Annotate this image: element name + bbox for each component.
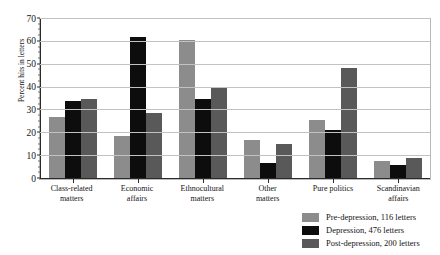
y-tick-label-40: 40 <box>27 83 37 93</box>
x-axis-line <box>40 178 430 179</box>
y-tick-minor <box>38 143 40 144</box>
legend-label-post: Post-depression, 200 letters <box>326 238 420 248</box>
gridline-20 <box>40 132 430 133</box>
bar-post-5[interactable] <box>406 158 422 179</box>
y-tick-minor <box>38 58 40 59</box>
legend-item-dep[interactable]: Depression, 476 letters <box>302 224 420 236</box>
x-tick-mark-1 <box>138 179 139 183</box>
y-tick-label-10: 10 <box>27 151 37 161</box>
gridline-30 <box>40 109 430 110</box>
bar-dep-3[interactable] <box>260 163 276 179</box>
legend-label-dep: Depression, 476 letters <box>326 225 404 235</box>
chart-legend: Pre-depression, 116 lettersDepression, 4… <box>302 211 420 250</box>
bar-pre-4[interactable] <box>309 120 325 179</box>
gridline-10 <box>40 155 430 156</box>
legend-item-post[interactable]: Post-depression, 200 letters <box>302 237 420 249</box>
gridline-40 <box>40 87 430 88</box>
y-tick-minor <box>38 98 40 99</box>
x-tick-mark-2 <box>203 179 204 183</box>
category-label-line: matters <box>235 194 300 204</box>
bar-pre-5[interactable] <box>374 161 390 179</box>
y-tick-minor <box>38 103 40 104</box>
y-tick-minor <box>38 52 40 53</box>
y-tick-minor <box>38 166 40 167</box>
bar-pre-0[interactable] <box>49 117 65 179</box>
y-tick-minor <box>38 29 40 30</box>
y-tick-mark-40 <box>37 86 40 87</box>
y-tick-minor <box>38 149 40 150</box>
bar-dep-1[interactable] <box>130 37 146 179</box>
y-tick-label-0: 0 <box>31 174 36 184</box>
bar-post-0[interactable] <box>81 99 97 179</box>
y-tick-mark-10 <box>37 155 40 156</box>
bar-post-3[interactable] <box>276 144 292 179</box>
category-label-line: matters <box>170 194 235 204</box>
y-tick-minor <box>38 126 40 127</box>
y-tick-label-30: 30 <box>27 106 37 116</box>
y-tick-label-60: 60 <box>27 37 37 47</box>
bar-pre-3[interactable] <box>244 140 260 179</box>
bar-post-1[interactable] <box>146 113 162 179</box>
category-label-line: Pure politics <box>300 184 365 194</box>
y-tick-mark-0 <box>37 178 40 179</box>
y-tick-minor <box>38 35 40 36</box>
category-label-5: Scandinavianaffairs <box>366 184 431 204</box>
plot-inner: 010203040506070 <box>40 19 430 179</box>
category-label-line: affairs <box>366 194 431 204</box>
category-label-line: Other <box>235 184 300 194</box>
category-label-line: Economic <box>104 184 169 194</box>
gridline-50 <box>40 64 430 65</box>
y-tick-minor <box>38 46 40 47</box>
gridline-70 <box>40 18 430 19</box>
y-tick-minor <box>38 160 40 161</box>
x-tick-mark-4 <box>333 179 334 183</box>
y-tick-minor <box>38 172 40 173</box>
category-label-3: Othermatters <box>235 184 300 204</box>
y-tick-label-70: 70 <box>27 14 37 24</box>
y-tick-minor <box>38 138 40 139</box>
y-tick-mark-50 <box>37 63 40 64</box>
category-label-1: Economicaffairs <box>104 184 169 204</box>
legend-swatch-pre <box>302 213 319 222</box>
y-tick-mark-30 <box>37 109 40 110</box>
x-tick-mark-3 <box>268 179 269 183</box>
y-tick-minor <box>38 23 40 24</box>
bar-pre-1[interactable] <box>114 136 130 179</box>
y-axis-label: Percent hits in letters <box>17 6 26 136</box>
category-label-0: Class-relatedmatters <box>39 184 104 204</box>
gridline-60 <box>40 41 430 42</box>
y-tick-minor <box>38 69 40 70</box>
bar-post-4[interactable] <box>341 68 357 179</box>
plot-area: 010203040506070 <box>39 18 431 180</box>
category-label-line: Class-related <box>39 184 104 194</box>
bar-dep-0[interactable] <box>65 101 81 179</box>
legend-label-pre: Pre-depression, 116 letters <box>326 212 416 222</box>
y-tick-mark-60 <box>37 40 40 41</box>
y-tick-minor <box>38 92 40 93</box>
y-tick-label-20: 20 <box>27 129 37 139</box>
category-label-2: Ethnoculturalmatters <box>170 184 235 204</box>
bar-dep-2[interactable] <box>195 99 211 179</box>
category-labels: Class-relatedmattersEconomicaffairsEthno… <box>39 184 431 204</box>
category-label-4: Pure politics <box>300 184 365 204</box>
x-tick-mark-0 <box>73 179 74 183</box>
y-tick-minor <box>38 120 40 121</box>
category-label-line: matters <box>39 194 104 204</box>
y-tick-minor <box>38 75 40 76</box>
category-label-line: Ethnocultural <box>170 184 235 194</box>
legend-swatch-post <box>302 239 319 248</box>
y-tick-mark-70 <box>37 18 40 19</box>
x-tick-mark-5 <box>398 179 399 183</box>
category-label-line: Scandinavian <box>366 184 431 194</box>
bar-chart-figure: Percent hits in letters 010203040506070 … <box>0 0 440 255</box>
bar-dep-5[interactable] <box>390 165 406 179</box>
y-tick-minor <box>38 115 40 116</box>
y-tick-minor <box>38 80 40 81</box>
category-label-line: affairs <box>104 194 169 204</box>
legend-swatch-dep <box>302 226 319 235</box>
y-tick-mark-20 <box>37 132 40 133</box>
y-tick-label-50: 50 <box>27 60 37 70</box>
legend-item-pre[interactable]: Pre-depression, 116 letters <box>302 211 420 223</box>
